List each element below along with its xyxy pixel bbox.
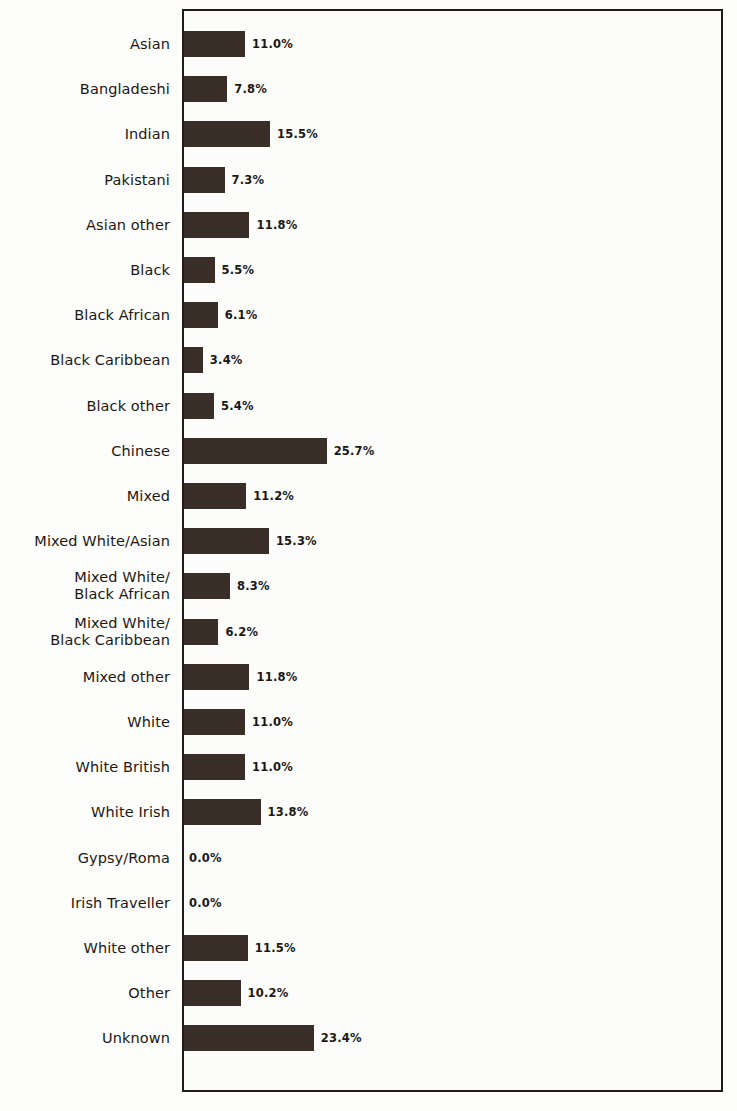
value-label: 0.0% (189, 896, 222, 910)
bar-row: White11.0% (0, 700, 737, 744)
bar-row: White Irish13.8% (0, 790, 737, 834)
value-label: 11.0% (252, 37, 293, 51)
value-label: 11.0% (252, 715, 293, 729)
value-label: 5.4% (221, 399, 254, 413)
bar-and-value: 5.4% (184, 393, 254, 419)
bar-row: Irish Traveller0.0% (0, 881, 737, 925)
category-label: Chinese (0, 442, 170, 459)
bar-row: Indian15.5% (0, 112, 737, 156)
bar-and-value: 11.2% (184, 483, 294, 509)
bar-and-value: 11.5% (184, 935, 296, 961)
bar (184, 664, 249, 690)
bar-and-value: 11.0% (184, 754, 293, 780)
bar-row: Mixed White/Asian15.3% (0, 519, 737, 563)
category-label: Black Caribbean (0, 352, 170, 369)
bar (184, 347, 203, 373)
bar-and-value: 8.3% (184, 573, 270, 599)
category-label: Black African (0, 307, 170, 324)
bar (184, 528, 269, 554)
bar-row: White British11.0% (0, 745, 737, 789)
bar (184, 935, 248, 961)
chart-page: Asian11.0%Bangladeshi7.8%Indian15.5%Paki… (0, 0, 737, 1111)
category-label: Pakistani (0, 171, 170, 188)
bar-and-value: 6.2% (184, 619, 258, 645)
bar-and-value: 10.2% (184, 980, 289, 1006)
category-label: Mixed White/ Black Caribbean (0, 615, 170, 649)
bar-and-value: 11.8% (184, 664, 297, 690)
bar-row: Other10.2% (0, 971, 737, 1015)
bar-and-value: 0.0% (184, 896, 222, 910)
category-label: Bangladeshi (0, 81, 170, 98)
bar-row: Black other5.4% (0, 384, 737, 428)
value-label: 7.3% (232, 173, 265, 187)
category-label: White British (0, 759, 170, 776)
bar-and-value: 13.8% (184, 799, 308, 825)
category-label: White (0, 714, 170, 731)
category-label: Gypsy/Roma (0, 849, 170, 866)
bar-and-value: 15.5% (184, 121, 318, 147)
value-label: 11.8% (256, 218, 297, 232)
bar (184, 709, 245, 735)
category-label: Mixed White/Asian (0, 533, 170, 550)
value-label: 11.2% (253, 489, 294, 503)
category-label: Black other (0, 397, 170, 414)
bar-and-value: 11.0% (184, 31, 293, 57)
bar-and-value: 3.4% (184, 347, 243, 373)
bar-row: Asian other11.8% (0, 203, 737, 247)
value-label: 11.0% (252, 760, 293, 774)
bar-row: Mixed11.2% (0, 474, 737, 518)
bar-and-value: 7.3% (184, 167, 264, 193)
category-label: White Irish (0, 804, 170, 821)
bar-row: Black African6.1% (0, 293, 737, 337)
bar (184, 212, 249, 238)
bar (184, 799, 261, 825)
bar (184, 619, 218, 645)
bar-and-value: 0.0% (184, 851, 222, 865)
category-label: Other (0, 985, 170, 1002)
value-label: 25.7% (334, 444, 375, 458)
value-label: 11.8% (256, 670, 297, 684)
bar (184, 980, 241, 1006)
bar-and-value: 15.3% (184, 528, 317, 554)
category-label: White other (0, 940, 170, 957)
bar-row: Unknown23.4% (0, 1016, 737, 1060)
value-label: 11.5% (255, 941, 296, 955)
value-label: 0.0% (189, 851, 222, 865)
bar (184, 1025, 314, 1051)
bar (184, 121, 270, 147)
value-label: 23.4% (321, 1031, 362, 1045)
bar (184, 31, 245, 57)
bar-and-value: 7.8% (184, 76, 267, 102)
value-label: 13.8% (268, 805, 309, 819)
category-label: Irish Traveller (0, 894, 170, 911)
value-label: 15.3% (276, 534, 317, 548)
category-label: Indian (0, 126, 170, 143)
bar-row: Gypsy/Roma0.0% (0, 836, 737, 880)
value-label: 3.4% (210, 353, 243, 367)
bar-and-value: 6.1% (184, 302, 258, 328)
category-label: Mixed (0, 488, 170, 505)
bar-rows-container: Asian11.0%Bangladeshi7.8%Indian15.5%Paki… (0, 9, 737, 1092)
bar-row: Chinese25.7% (0, 429, 737, 473)
bar (184, 754, 245, 780)
bar-row: Mixed White/ Black African8.3% (0, 564, 737, 608)
bar-and-value: 5.5% (184, 257, 254, 283)
value-label: 10.2% (248, 986, 289, 1000)
value-label: 5.5% (222, 263, 255, 277)
bar (184, 76, 227, 102)
bar-and-value: 11.0% (184, 709, 293, 735)
bar-row: Mixed other11.8% (0, 655, 737, 699)
bar-row: Black5.5% (0, 248, 737, 292)
category-label: Asian other (0, 216, 170, 233)
bar-row: Mixed White/ Black Caribbean6.2% (0, 610, 737, 654)
bar-row: White other11.5% (0, 926, 737, 970)
bar (184, 167, 225, 193)
category-label: Asian (0, 36, 170, 53)
category-label: Black (0, 262, 170, 279)
bar-row: Pakistani7.3% (0, 158, 737, 202)
category-label: Unknown (0, 1030, 170, 1047)
bar (184, 302, 218, 328)
bar (184, 257, 215, 283)
bar (184, 573, 230, 599)
bar (184, 393, 214, 419)
